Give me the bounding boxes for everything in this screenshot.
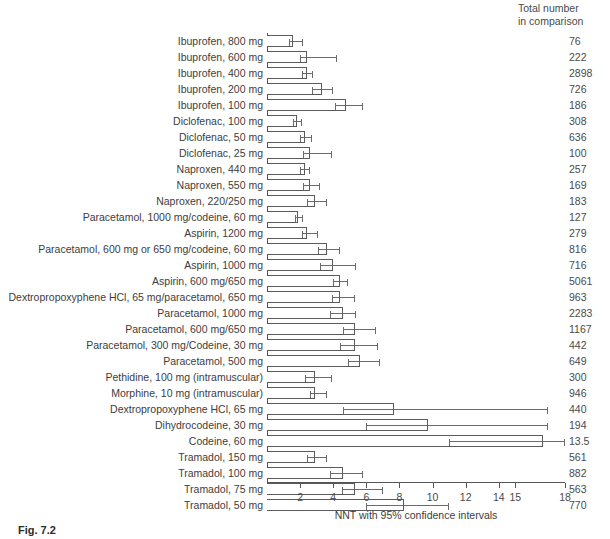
figure-caption: Fig. 7.2	[18, 524, 56, 536]
bar-category-label: Ibuprofen, 200 mg	[178, 84, 263, 95]
confidence-interval-whisker	[333, 281, 348, 282]
bar	[267, 211, 298, 223]
bar-category-label: Dextropropoxyphene HCl, 65 mg	[110, 404, 263, 415]
total-number-value: 563	[569, 484, 587, 495]
bar-category-label: Paracetamol, 600 mg/650 mg	[125, 324, 263, 335]
x-axis-tick-label: 18	[559, 491, 571, 503]
total-number-value: 13.5	[569, 436, 589, 447]
x-axis-tick	[565, 483, 566, 488]
chart-row: Aspirin, 600 mg/650 mg5061	[267, 273, 565, 289]
confidence-interval-whisker	[305, 377, 331, 378]
confidence-interval-whisker	[300, 57, 336, 58]
total-number-value: 442	[569, 340, 587, 351]
total-number-value: 726	[569, 84, 587, 95]
x-axis-tick	[333, 483, 334, 488]
chart-row: Aspirin, 1000 mg716	[267, 257, 565, 273]
bar-category-label: Paracetamol, 300 mg/Codeine, 30 mg	[86, 340, 263, 351]
bar-category-label: Dextropropoxyphene HCl, 65 mg/paracetamo…	[9, 292, 263, 303]
bar-category-label: Diclofenac, 50 mg	[179, 132, 263, 143]
total-number-value: 649	[569, 356, 587, 367]
confidence-interval-whisker	[330, 313, 356, 314]
x-axis-tick-label: 15	[509, 491, 521, 503]
bar-category-label: Ibuprofen, 400 mg	[178, 68, 263, 79]
confidence-interval-whisker	[318, 249, 340, 250]
chart-row: Tramadol, 100 mg882	[267, 465, 565, 481]
chart-row: Dihydrocodeine, 30 mg194	[267, 417, 565, 433]
bar-category-label: Paracetamol, 600 mg or 650 mg/codeine, 6…	[38, 244, 263, 255]
chart-row: Diclofenac, 50 mg636	[267, 129, 565, 145]
bar-category-label: Tramadol, 100 mg	[178, 468, 263, 479]
confidence-interval-whisker	[312, 89, 334, 90]
x-axis-tick	[466, 483, 467, 488]
x-axis-tick	[515, 483, 516, 488]
x-axis-tick	[399, 483, 400, 488]
x-axis-title: NNT with 95% confidence intervals	[267, 509, 565, 521]
chart-row: Codeine, 60 mg13.5	[267, 433, 565, 449]
bar	[267, 275, 340, 287]
x-axis-tick	[433, 483, 434, 488]
total-number-value: 169	[569, 180, 587, 191]
bar-category-label: Pethidine, 100 mg (intramuscular)	[105, 372, 263, 383]
total-number-value: 279	[569, 228, 587, 239]
chart-row: Naproxen, 220/250 mg183	[267, 193, 565, 209]
confidence-interval-whisker	[330, 473, 363, 474]
bar-category-label: Diclofenac, 100 mg	[173, 116, 263, 127]
bar	[267, 227, 307, 239]
figure-container: Total number in comparison Ibuprofen, 80…	[0, 0, 610, 539]
confidence-interval-whisker	[293, 121, 301, 122]
chart-row: Diclofenac, 25 mg100	[267, 145, 565, 161]
x-axis-tick-label: 14	[493, 491, 505, 503]
chart-row: Paracetamol, 600 mg or 650 mg/codeine, 6…	[267, 241, 565, 257]
bar-category-label: Morphine, 10 mg (intramuscular)	[111, 388, 263, 399]
total-number-value: 440	[569, 404, 587, 415]
confidence-interval-whisker	[310, 393, 327, 394]
totals-column-header: Total number in comparison	[518, 2, 604, 28]
bar-category-label: Tramadol, 50 mg	[184, 500, 263, 511]
confidence-interval-whisker	[300, 169, 310, 170]
x-axis-tick-label: 8	[397, 491, 403, 503]
total-number-value: 100	[569, 148, 587, 159]
chart-row: Ibuprofen, 200 mg726	[267, 81, 565, 97]
confidence-interval-whisker	[340, 345, 378, 346]
bar-category-label: Dihydrocodeine, 30 mg	[155, 420, 263, 431]
bar-category-label: Codeine, 60 mg	[189, 436, 263, 447]
x-axis-tick-label: 6	[363, 491, 369, 503]
chart-row: Ibuprofen, 800 mg76	[267, 33, 565, 49]
total-number-value: 2898	[569, 68, 592, 79]
chart-row: Dextropropoxyphene HCl, 65 mg/paracetamo…	[267, 289, 565, 305]
chart-row: Paracetamol, 600 mg/650 mg1167	[267, 321, 565, 337]
bar-category-label: Diclofenac, 25 mg	[179, 148, 263, 159]
bar-category-label: Aspirin, 1200 mg	[184, 228, 263, 239]
chart-row: Tramadol, 150 mg561	[267, 449, 565, 465]
bar-category-label: Aspirin, 1000 mg	[184, 260, 263, 271]
chart-plot-area: Ibuprofen, 800 mg76Ibuprofen, 600 mg222I…	[267, 33, 565, 483]
bar	[267, 387, 315, 399]
bar-category-label: Tramadol, 75 mg	[184, 484, 263, 495]
total-number-value: 882	[569, 468, 587, 479]
total-number-value: 222	[569, 52, 587, 63]
bar	[267, 67, 307, 79]
confidence-interval-whisker	[366, 505, 449, 506]
confidence-interval-whisker	[307, 201, 327, 202]
chart-row: Ibuprofen, 100 mg186	[267, 97, 565, 113]
confidence-interval-whisker	[302, 73, 314, 74]
chart-row: Paracetamol, 300 mg/Codeine, 30 mg442	[267, 337, 565, 353]
confidence-interval-whisker	[307, 457, 327, 458]
bar-category-label: Naproxen, 220/250 mg	[156, 196, 263, 207]
chart-row: Diclofenac, 100 mg308	[267, 113, 565, 129]
x-axis-tick-label: 4	[330, 491, 336, 503]
confidence-interval-whisker	[449, 441, 565, 442]
confidence-interval-whisker	[335, 105, 363, 106]
bar	[267, 355, 360, 367]
total-number-value: 2283	[569, 308, 592, 319]
x-axis-tick	[366, 483, 367, 488]
bar-category-label: Paracetamol, 1000 mg	[157, 308, 263, 319]
x-axis-tick	[499, 483, 500, 488]
total-number-value: 716	[569, 260, 587, 271]
total-number-value: 946	[569, 388, 587, 399]
total-number-value: 636	[569, 132, 587, 143]
chart-row: Paracetamol, 500 mg649	[267, 353, 565, 369]
confidence-interval-whisker	[303, 153, 331, 154]
total-number-value: 963	[569, 292, 587, 303]
bar	[267, 323, 355, 335]
